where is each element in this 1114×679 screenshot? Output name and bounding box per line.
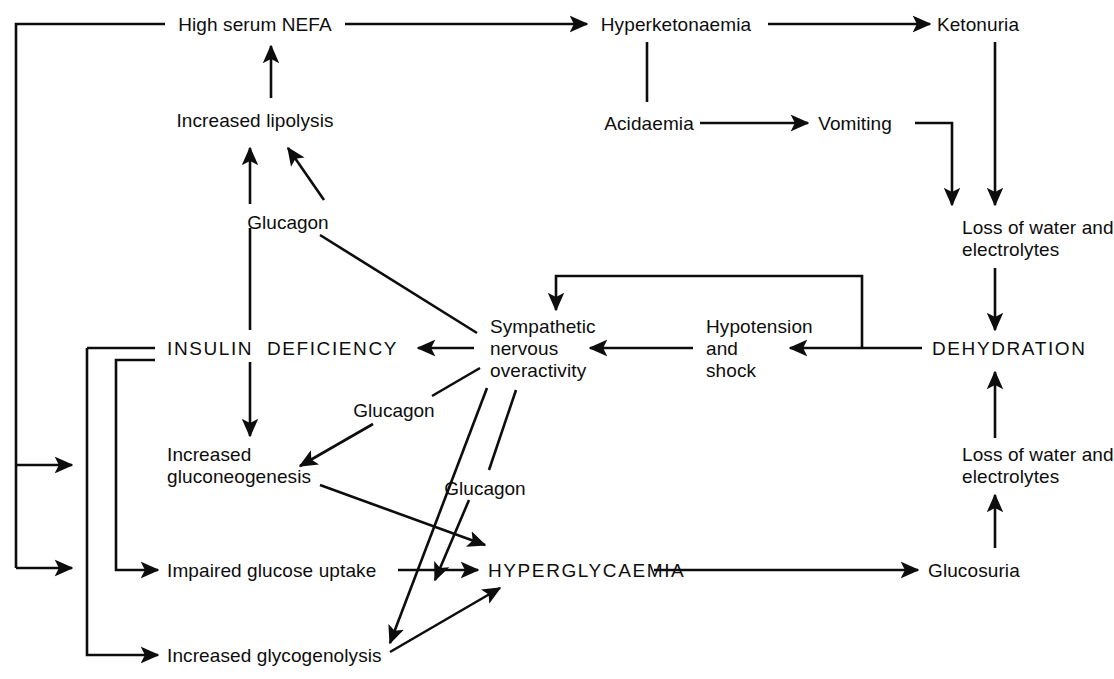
node-glucagon-hyperglycaemia: Glucagon: [444, 478, 525, 500]
node-hyperketonaemia: Hyperketonaemia: [601, 14, 751, 36]
node-loss-of-water-bottom: Loss of water and electrolytes: [962, 444, 1114, 488]
edge-sympathetic-hyperglycaemia: [489, 390, 516, 470]
node-insulin-deficiency: INSULIN DEFICIENCY: [167, 338, 398, 360]
node-dehydration: DEHYDRATION: [932, 338, 1086, 360]
edge-sympathetic-lipolysis: [320, 235, 477, 333]
node-glucosuria: Glucosuria: [928, 560, 1020, 582]
node-impaired-glucose-uptake: Impaired glucose uptake: [167, 560, 376, 582]
edge-vomiting-losswater: [915, 123, 952, 205]
node-increased-glycogenolysis: Increased glycogenolysis: [167, 645, 382, 667]
node-vomiting: Vomiting: [818, 113, 892, 135]
node-sympathetic-nervous-overactivity: Sympathetic nervous overactivity: [490, 316, 596, 382]
edge-insulin-impaired-uptake: [116, 360, 158, 570]
node-loss-of-water-top: Loss of water and electrolytes: [962, 217, 1114, 261]
node-increased-gluconeogenesis: Increased gluconeogenesis: [167, 444, 311, 488]
node-ketonuria: Ketonuria: [937, 14, 1019, 36]
node-hypotension-and-shock: Hypotension and shock: [706, 316, 813, 382]
node-increased-lipolysis: Increased lipolysis: [176, 110, 333, 132]
node-glucagon-gluconeogenesis: Glucagon: [353, 400, 434, 422]
node-glucagon-lipolysis: Glucagon: [247, 212, 328, 234]
edge-sympathetic-gluconeo: [432, 368, 480, 396]
node-hyperglycaemia: HYPERGLYCAEMIA: [488, 560, 685, 582]
edge-sympathetic-lipolysis-head: [288, 148, 324, 200]
node-acidaemia: Acidaemia: [604, 113, 694, 135]
edge-insulin-glycogenolysis: [87, 348, 158, 655]
edge-insulin-nefa-loop-top: [16, 24, 165, 568]
node-high-serum-nefa: High serum NEFA: [178, 14, 332, 36]
